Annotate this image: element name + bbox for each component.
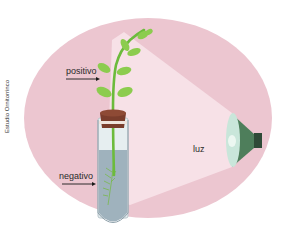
image-credit: Estudio Ornitorrinco [4, 80, 10, 133]
label-negative: negativo [59, 172, 93, 181]
phototropism-diagram [0, 0, 283, 232]
cork [99, 110, 127, 129]
label-positive: positivo [66, 67, 97, 76]
label-light: luz [193, 145, 205, 154]
